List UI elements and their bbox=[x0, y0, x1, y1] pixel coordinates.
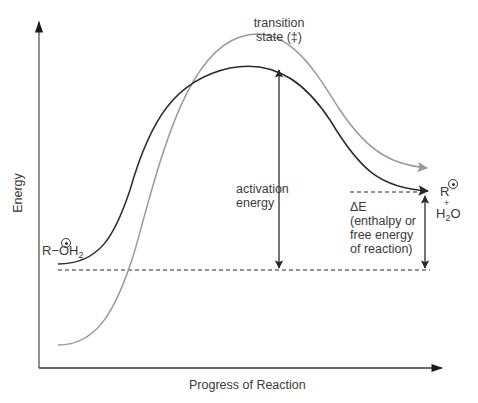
x-axis-label: Progress of Reaction bbox=[189, 378, 306, 392]
y-axis-label: Energy bbox=[11, 173, 25, 213]
product-water-label: H2O bbox=[436, 206, 461, 223]
positive-charge-icon bbox=[448, 179, 458, 189]
delta-e-label: ΔE (enthalpy or free energy of reaction) bbox=[350, 200, 416, 256]
activation-energy-label: activation energy bbox=[236, 182, 289, 210]
reactant-label: R−OH2 bbox=[42, 243, 84, 260]
transition-state-label: transition state (‡) bbox=[236, 16, 322, 44]
product-cation-charge bbox=[448, 177, 458, 192]
product-cation-label: R bbox=[440, 184, 449, 199]
